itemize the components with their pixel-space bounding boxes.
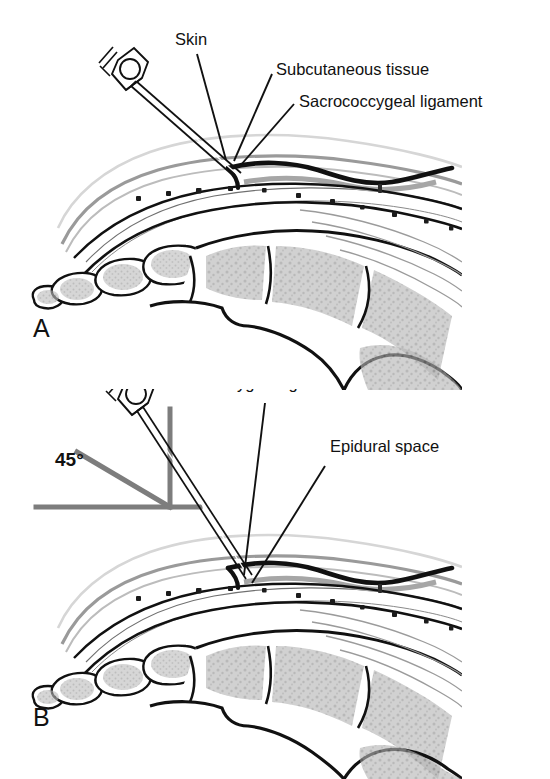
- panel-letter-b: B: [33, 705, 50, 730]
- panel-b-artwork: [0, 389, 550, 779]
- panel-letter-a: A: [33, 316, 50, 341]
- label-subcutaneous-tissue: Subcutaneous tissue: [276, 61, 429, 78]
- sacrococcygeal-ligament-anterior-edge: [228, 568, 238, 588]
- needle-shaft: [137, 407, 252, 579]
- panel-a-artwork: [0, 0, 550, 390]
- label-angle-45-degrees: 45°: [55, 450, 84, 469]
- epidural-space-fat-dots: [136, 184, 453, 230]
- label-skin: Skin: [175, 31, 207, 48]
- forty-five-degree-line: [77, 452, 170, 507]
- subcutaneous-tissue-band: [62, 156, 462, 244]
- needle-hub: [99, 47, 148, 90]
- panel-a: Skin Subcutaneous tissue Sacrococcygeal …: [0, 0, 550, 390]
- label-epidural-space: Epidural space: [330, 438, 439, 455]
- leader-line-skin: [197, 54, 226, 160]
- label-sacrococcygeal-ligament-b: Sacrococcygeal ligament: [160, 389, 343, 392]
- epidural-space-fat-dots: [136, 584, 453, 630]
- subcutaneous-tissue-band: [62, 556, 462, 644]
- leader-line-sacrococcygeal-ligament: [244, 403, 265, 575]
- panel-b: Sacrococcygeal ligament Epidural space 4…: [0, 389, 550, 779]
- label-sacrococcygeal-ligament-a: Sacrococcygeal ligament: [299, 93, 482, 110]
- leader-line-subcutaneous-tissue: [234, 74, 272, 161]
